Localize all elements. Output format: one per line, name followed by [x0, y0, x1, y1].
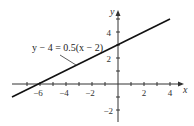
y-tick-label: −2: [103, 106, 113, 116]
x-tick-label: −4: [59, 88, 69, 98]
equation-label: y − 4 = 0.5(x − 2): [32, 42, 103, 54]
chart: −6 −4 −2 2 4 4 2 −2 x y y − 4 = 0.5(x − …: [0, 0, 194, 126]
x-tick-label: 4: [168, 88, 173, 98]
x-tick-label: −2: [85, 88, 95, 98]
y-tick-label: 4: [107, 28, 112, 38]
y-axis-arrow-icon: [116, 10, 121, 16]
y-tick-label: 2: [107, 54, 112, 64]
leader-line: [60, 55, 76, 65]
x-tick-label: −6: [33, 88, 43, 98]
line-series: [12, 19, 170, 97]
x-axis-label: x: [182, 84, 188, 95]
x-tick-label: 2: [142, 88, 147, 98]
y-axis-label: y: [109, 6, 115, 17]
